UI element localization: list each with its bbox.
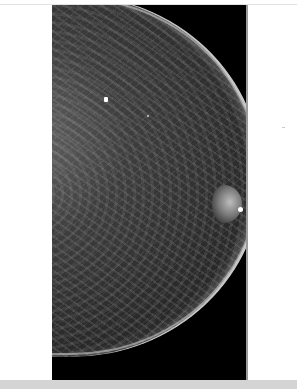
skin-line <box>52 5 247 355</box>
mammogram-film <box>52 5 247 380</box>
skin-marker-icon <box>238 207 243 212</box>
film-edge <box>246 5 248 380</box>
bottom-band <box>0 380 297 389</box>
calcification <box>147 115 149 117</box>
scan-speck <box>282 127 285 128</box>
calcification <box>104 97 108 102</box>
